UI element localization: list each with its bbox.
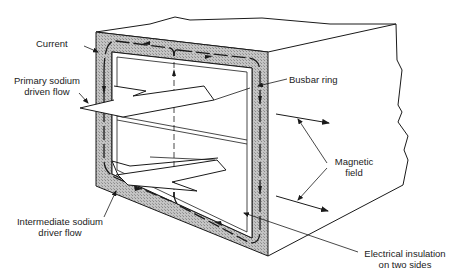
label-magnetic-field-line1: Magnetic (329, 156, 379, 167)
label-intermediate-flow-line1: Intermediate sodium (10, 216, 110, 227)
label-primary-flow-line1: Primary sodium (10, 75, 84, 86)
label-electrical-insulation: Electrical insulation on two sides (357, 248, 453, 270)
diagram-canvas: Current Primary sodium driven flow Busba… (0, 0, 454, 278)
label-insulation-line1: Electrical insulation (357, 248, 453, 259)
magnetic-field-arrows (276, 114, 329, 211)
leader-magnetic-lower (298, 168, 327, 200)
label-magnetic-field: Magnetic field (329, 156, 379, 178)
label-magnetic-field-line2: field (329, 167, 379, 178)
leader-magnetic-upper (298, 119, 327, 163)
label-intermediate-flow-line2: driver flow (10, 227, 110, 238)
label-primary-flow-line2: driven flow (10, 86, 84, 97)
label-busbar-ring: Busbar ring (289, 74, 338, 85)
busbar-ring (96, 32, 268, 256)
leader-intermediate-flow (104, 191, 116, 217)
label-insulation-line2: on two sides (357, 259, 453, 270)
label-primary-flow: Primary sodium driven flow (10, 75, 84, 97)
label-current: Current (36, 38, 68, 49)
label-intermediate-flow: Intermediate sodium driver flow (10, 216, 110, 238)
